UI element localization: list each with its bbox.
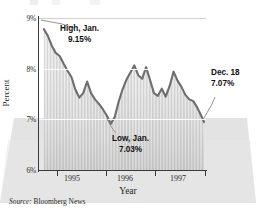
annotation-low-line2: 7.03% [112,145,149,156]
source-name: Bloomberg News [34,197,86,206]
annotation-high: High, Jan. 9.15% [60,24,99,45]
annotation-low-line1: Low, Jan. [112,134,149,143]
annotation-low: Low, Jan. 7.03% [112,134,149,155]
annotation-high-line1: High, Jan. [60,24,99,33]
source-label: Source: [9,197,32,206]
annotation-high-line2: 9.15% [60,35,99,46]
source-credit: Source: Bloomberg News [9,197,85,206]
chart-figure: 9% 8% 7% 6% 1995 1996 1997 Year Percent … [0,0,256,211]
annotation-last: Dec. 18 7.07% [211,68,240,89]
annotation-leader-lines [0,0,256,211]
annotation-last-line1: Dec. 18 [211,68,240,77]
annotation-last-line2: 7.07% [211,79,240,90]
